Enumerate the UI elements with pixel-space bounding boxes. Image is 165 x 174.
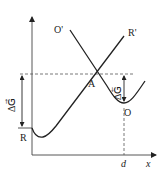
label-d: d: [121, 158, 127, 169]
right-gap-label: ΔG⃖: [111, 86, 123, 100]
energy-diagram: O' R' A O R d x ΔG⃗ ΔG⃖: [0, 0, 165, 174]
label-a: A: [88, 78, 96, 89]
curve-r: [32, 36, 124, 137]
label-r: R: [20, 132, 27, 143]
label-o-prime: O': [54, 24, 63, 35]
label-o: O: [124, 107, 131, 118]
label-r-prime: R': [128, 27, 137, 38]
label-x: x: [145, 158, 151, 169]
left-gap-label: ΔG⃗: [5, 98, 17, 112]
